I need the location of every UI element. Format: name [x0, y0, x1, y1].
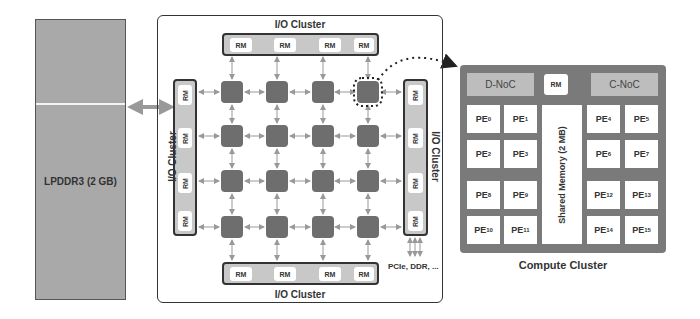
router-r4-c2	[266, 216, 288, 238]
rm-top-1: RM	[230, 38, 252, 52]
pe-5: PE5	[625, 105, 658, 133]
rm-right-4: RM	[408, 211, 423, 231]
router-r2-c2	[266, 125, 288, 147]
router-r1-c2	[266, 81, 288, 103]
rm-right-2: RM	[408, 128, 423, 148]
pe-11: PE11	[504, 216, 537, 244]
io-cluster-left-label: I/O Cluster	[167, 102, 178, 212]
pe-2: PE2	[467, 140, 500, 168]
router-r3-c3	[312, 170, 334, 192]
rm-left-1: RM	[178, 85, 192, 105]
rm-bottom-2: RM	[274, 267, 296, 281]
io-cluster-bottom-label: I/O Cluster	[222, 289, 378, 300]
rm-right-3: RM	[408, 173, 423, 193]
pe-1: PE1	[504, 105, 537, 133]
compute-cluster: D-NoC RM C-NoC PE0 PE1 PE2 PE3 PE8 PE9 P…	[460, 65, 666, 253]
rm-left-2: RM	[178, 128, 192, 148]
router-r4-c1	[221, 216, 243, 238]
io-cluster-right-label: I/O Cluster	[430, 102, 441, 212]
pe-9: PE9	[504, 181, 537, 209]
pe-6: PE6	[587, 140, 620, 168]
pe-13: PE13	[625, 181, 658, 209]
router-r3-c2	[266, 170, 288, 192]
rm-top-3: RM	[319, 38, 341, 52]
memory-divider-line	[36, 103, 125, 105]
rm-top-2: RM	[274, 38, 296, 52]
shared-memory: Shared Memory (2 MB)	[542, 105, 582, 244]
rm-left-3: RM	[178, 173, 192, 193]
rm-bottom-4: RM	[354, 267, 374, 281]
io-cluster-top-label: I/O Cluster	[222, 19, 378, 30]
c-noc: C-NoC	[591, 73, 658, 96]
pe-3: PE3	[504, 140, 537, 168]
pe-8: PE8	[467, 181, 500, 209]
router-r2-c1	[221, 125, 243, 147]
shared-memory-label: Shared Memory (2 MB)	[557, 126, 567, 224]
router-r2-c4	[357, 125, 379, 147]
pe-4: PE4	[587, 105, 620, 133]
io-cluster-top: RM RM RM RM	[222, 33, 379, 56]
router-r3-c4	[357, 170, 379, 192]
router-r1-c1	[221, 81, 243, 103]
rm-left-4: RM	[178, 211, 192, 231]
router-r4-c3	[312, 216, 334, 238]
pe-12: PE12	[587, 181, 620, 209]
d-noc: D-NoC	[467, 73, 534, 96]
rm-bottom-3: RM	[319, 267, 341, 281]
external-io-label: PCIe, DDR, ...	[388, 262, 439, 271]
router-r1-c4-highlighted	[357, 81, 379, 103]
soc-noc-box	[157, 15, 443, 303]
io-cluster-right: RM RM RM RM	[403, 79, 428, 236]
pe-10: PE10	[467, 216, 500, 244]
router-r4-c4	[357, 216, 379, 238]
router-r3-c1	[221, 170, 243, 192]
compute-cluster-label: Compute Cluster	[460, 259, 666, 271]
io-cluster-bottom: RM RM RM RM	[222, 262, 379, 285]
pe-0: PE0	[467, 105, 500, 133]
rm-bottom-1: RM	[230, 267, 252, 281]
rm-top-4: RM	[354, 38, 374, 52]
router-r2-c3	[312, 125, 334, 147]
rm-right-1: RM	[408, 85, 423, 105]
pe-7: PE7	[625, 140, 658, 168]
router-r1-c3	[312, 81, 334, 103]
lpddr3-label: LPDDR3 (2 GB)	[36, 176, 125, 187]
lpddr3-memory-block: LPDDR3 (2 GB)	[35, 19, 126, 300]
compute-rm: RM	[544, 74, 568, 95]
pe-14: PE14	[587, 216, 620, 244]
pe-15: PE15	[625, 216, 658, 244]
